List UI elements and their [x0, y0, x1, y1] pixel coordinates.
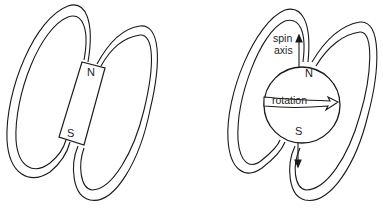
magnet-north-label: N: [87, 66, 95, 78]
sphere-north-label: N: [305, 67, 313, 79]
left-panel-bar-magnet: [7, 5, 158, 200]
spin-axis-up-arrowhead: [296, 35, 302, 42]
diagram-canvas: N S spin axis N rotation S: [0, 0, 383, 224]
rotation-label: rotation: [272, 94, 307, 106]
magnet-south-label: S: [67, 127, 74, 139]
sphere-south-label: S: [295, 125, 302, 137]
bar-magnet: [59, 62, 105, 145]
spin-axis-label-line2: axis: [274, 44, 293, 56]
spin-axis-label-line1: spin: [273, 32, 292, 44]
